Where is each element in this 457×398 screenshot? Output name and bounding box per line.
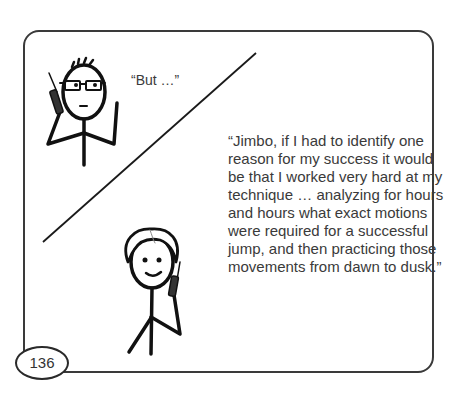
- character-glasses-man: [48, 58, 117, 165]
- quote-line: be that I worked very hard at my: [228, 168, 448, 186]
- quote-line: movements from dawn to dusk.”: [228, 258, 448, 276]
- quote-line: were required for a successful: [228, 222, 448, 240]
- quote-line: “Jimbo, if I had to identify one: [228, 132, 448, 150]
- page-number-badge: 136: [15, 346, 69, 380]
- quote-line: jump, and then practicing those: [228, 240, 448, 258]
- quote-line: reason for my success it would: [228, 150, 448, 168]
- quote-line: and hours what exact motions: [228, 204, 448, 222]
- speech-text-quote: “Jimbo, if I had to identify one reason …: [228, 132, 448, 276]
- character-smiling-man: [126, 229, 180, 354]
- quote-line: technique … analyzing for hours: [228, 186, 448, 204]
- speech-text-but: “But …”: [131, 72, 179, 88]
